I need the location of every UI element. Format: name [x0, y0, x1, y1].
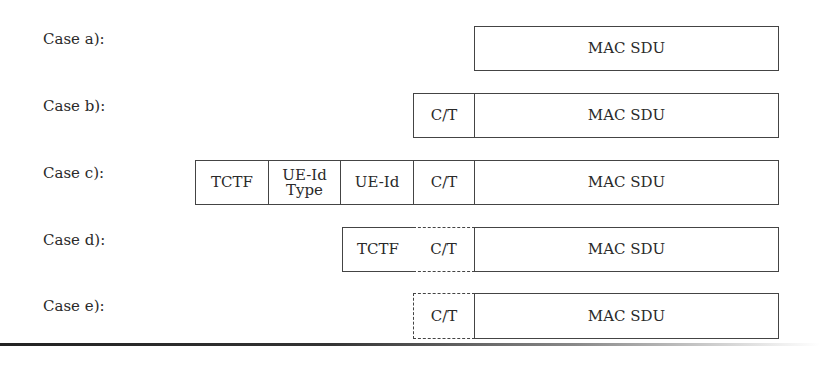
tctf-field: TCTF [195, 160, 269, 205]
ue-id-type-field: UE-Id Type [268, 160, 341, 205]
mac-sdu-field: MAC SDU [474, 26, 779, 71]
case-e-label: Case e): [43, 296, 105, 316]
case-c-label: Case c): [43, 163, 104, 183]
ue-id-field: UE-Id [340, 160, 414, 205]
mac-sdu-field: MAC SDU [474, 293, 779, 339]
mac-sdu-field: MAC SDU [474, 93, 779, 138]
ct-optional-field: C/T [413, 293, 475, 339]
ue-id-type-line2: Type [286, 183, 323, 198]
ct-field: C/T [413, 160, 475, 205]
bottom-divider [0, 343, 820, 346]
mac-sdu-field: MAC SDU [474, 160, 779, 205]
ct-optional-field: C/T [413, 227, 475, 272]
tctf-field: TCTF [342, 227, 414, 272]
ct-field: C/T [413, 93, 475, 138]
mac-sdu-field: MAC SDU [474, 227, 779, 272]
case-a-label: Case a): [43, 29, 105, 49]
case-b-label: Case b): [43, 96, 105, 116]
case-d-label: Case d): [43, 230, 105, 250]
